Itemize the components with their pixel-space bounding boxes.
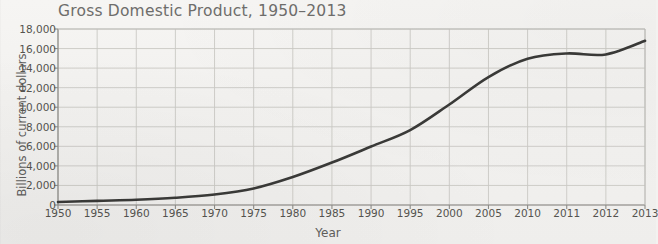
y-tick-label: 14,000 xyxy=(2,62,56,74)
vertical-gridlines xyxy=(58,29,645,205)
x-tick-label: 1960 xyxy=(123,207,150,219)
y-tick-label: 2,000 xyxy=(2,179,56,191)
x-tick-label: 1950 xyxy=(45,207,72,219)
x-tick-label: 2012 xyxy=(592,207,619,219)
x-axis-title: Year xyxy=(0,226,656,240)
axis-tick-marks xyxy=(54,29,645,209)
x-tick-label: 1990 xyxy=(358,207,385,219)
x-tick-label: 2000 xyxy=(436,207,463,219)
x-tick-label: 1970 xyxy=(201,207,228,219)
y-tick-label: 10,000 xyxy=(2,101,56,113)
horizontal-gridlines xyxy=(58,29,645,205)
x-tick-label: 1975 xyxy=(240,207,267,219)
x-tick-label: 1980 xyxy=(279,207,306,219)
x-tick-label: 1985 xyxy=(319,207,346,219)
y-tick-label: 18,000 xyxy=(2,23,56,35)
x-tick-label: 2005 xyxy=(475,207,502,219)
y-tick-label: 6,000 xyxy=(2,140,56,152)
y-tick-label: 8,000 xyxy=(2,121,56,133)
gdp-line-series xyxy=(58,41,645,202)
x-tick-label: 1955 xyxy=(84,207,111,219)
y-tick-label: 4,000 xyxy=(2,160,56,172)
x-tick-label: 1995 xyxy=(397,207,424,219)
axis-lines xyxy=(58,29,645,205)
y-tick-label: 12,000 xyxy=(2,82,56,94)
x-tick-label: 2011 xyxy=(553,207,580,219)
x-tick-label: 2010 xyxy=(514,207,541,219)
y-tick-label: 16,000 xyxy=(2,43,56,55)
x-tick-label: 1965 xyxy=(162,207,189,219)
x-tick-label: 2013 xyxy=(632,207,658,219)
